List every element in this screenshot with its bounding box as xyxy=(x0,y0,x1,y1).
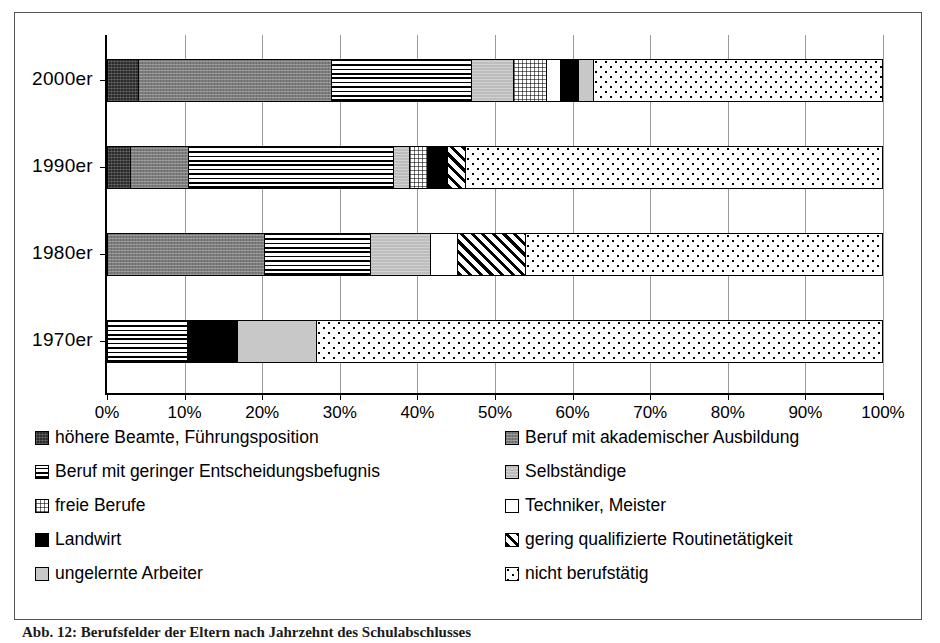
bar-segment[interactable] xyxy=(131,147,189,188)
x-tick-40 xyxy=(417,393,418,400)
legend-item[interactable]: gering qualifizierte Routinetätigkeit xyxy=(505,529,793,550)
category-label-1970er: 1970er xyxy=(32,329,93,351)
legend-label: nicht berufstätig xyxy=(525,563,649,584)
legend-label: höhere Beamte, Führungsposition xyxy=(55,427,319,448)
bar-segment[interactable] xyxy=(561,60,580,101)
legend-label: ungelernte Arbeiter xyxy=(55,563,203,584)
bar-segment[interactable] xyxy=(472,60,514,101)
bar-row: 1990er xyxy=(107,146,883,189)
legend-item[interactable]: Techniker, Meister xyxy=(505,495,666,516)
category-label-1980er: 1980er xyxy=(32,242,93,264)
x-axis-label: 80% xyxy=(693,403,763,423)
legend-label: Beruf mit geringer Entscheidungsbefugnis xyxy=(55,461,380,482)
bar-segment[interactable] xyxy=(428,147,448,188)
bar-segment[interactable] xyxy=(547,60,561,101)
x-axis-label: 60% xyxy=(538,403,608,423)
y-tick xyxy=(100,341,107,342)
legend-item[interactable]: ungelernte Arbeiter xyxy=(35,563,203,584)
x-tick-50 xyxy=(495,393,496,400)
bar-segment[interactable] xyxy=(466,147,882,188)
bar-segment[interactable] xyxy=(458,234,526,275)
y-tick xyxy=(100,167,107,168)
bar-segment[interactable] xyxy=(371,234,431,275)
stacked-bar-1980er[interactable] xyxy=(107,233,883,276)
legend-swatch-icon xyxy=(35,465,49,479)
bar-row: 1980er xyxy=(107,233,883,276)
legend-swatch-icon xyxy=(505,499,519,513)
bar-segment[interactable] xyxy=(238,321,317,362)
x-tick-80 xyxy=(728,393,729,400)
bar-segment[interactable] xyxy=(139,60,333,101)
legend-item[interactable]: Selbständige xyxy=(505,461,626,482)
bar-segment[interactable] xyxy=(108,147,131,188)
figure-caption: Abb. 12: Berufsfelder der Eltern nach Ja… xyxy=(22,624,922,643)
bar-segment[interactable] xyxy=(332,60,471,101)
bar-segment[interactable] xyxy=(394,147,409,188)
bar-segment[interactable] xyxy=(108,321,188,362)
legend-swatch-icon xyxy=(505,431,519,445)
x-axis-label: 90% xyxy=(770,403,840,423)
x-axis-label: 20% xyxy=(227,403,297,423)
x-axis-label: 70% xyxy=(615,403,685,423)
legend-item[interactable]: höhere Beamte, Führungsposition xyxy=(35,427,319,448)
bar-segment[interactable] xyxy=(108,60,139,101)
legend-swatch-icon xyxy=(35,499,49,513)
x-axis-label: 50% xyxy=(460,403,530,423)
bar-row: 2000er xyxy=(107,59,883,102)
stacked-bar-2000er[interactable] xyxy=(107,59,883,102)
x-axis-label: 10% xyxy=(150,403,220,423)
x-axis-label: 40% xyxy=(382,403,452,423)
legend-item[interactable]: Landwirt xyxy=(35,529,121,550)
stacked-bar-1990er[interactable] xyxy=(107,146,883,189)
stacked-bar-1970er[interactable] xyxy=(107,320,883,363)
legend-label: freie Berufe xyxy=(55,495,145,516)
x-tick-30 xyxy=(340,393,341,400)
legend-swatch-icon xyxy=(505,567,519,581)
bar-segment[interactable] xyxy=(189,147,394,188)
bar-segment[interactable] xyxy=(188,321,238,362)
bar-segment[interactable] xyxy=(108,234,265,275)
y-tick xyxy=(100,254,107,255)
bar-segment[interactable] xyxy=(265,234,371,275)
category-label-2000er: 2000er xyxy=(32,68,93,90)
x-tick-70 xyxy=(650,393,651,400)
legend-label: Landwirt xyxy=(55,529,121,550)
x-axis-label: 30% xyxy=(305,403,375,423)
legend-label: gering qualifizierte Routinetätigkeit xyxy=(525,529,793,550)
bar-segment[interactable] xyxy=(514,60,547,101)
bar-segment[interactable] xyxy=(431,234,458,275)
chart-legend: höhere Beamte, FührungspositionBeruf mit… xyxy=(35,425,897,603)
x-axis-label: 0% xyxy=(72,403,142,423)
y-tick xyxy=(100,80,107,81)
category-label-1990er: 1990er xyxy=(32,155,93,177)
x-tick-0 xyxy=(107,393,108,400)
x-tick-60 xyxy=(573,393,574,400)
legend-swatch-icon xyxy=(35,431,49,445)
legend-label: Beruf mit akademischer Ausbildung xyxy=(525,427,799,448)
bar-segment[interactable] xyxy=(448,147,467,188)
bar-row: 1970er xyxy=(107,320,883,363)
bar-segment[interactable] xyxy=(317,321,882,362)
figure-frame: 0%10%20%30%40%50%60%70%80%90%100%2000er1… xyxy=(14,12,922,620)
legend-swatch-icon xyxy=(35,533,49,547)
legend-item[interactable]: Beruf mit akademischer Ausbildung xyxy=(505,427,799,448)
legend-swatch-icon xyxy=(505,465,519,479)
legend-item[interactable]: Beruf mit geringer Entscheidungsbefugnis xyxy=(35,461,380,482)
legend-swatch-icon xyxy=(35,567,49,581)
legend-label: Techniker, Meister xyxy=(525,495,666,516)
legend-item[interactable]: freie Berufe xyxy=(35,495,145,516)
bar-segment[interactable] xyxy=(579,60,594,101)
bar-segment[interactable] xyxy=(526,234,882,275)
legend-item[interactable]: nicht berufstätig xyxy=(505,563,649,584)
x-tick-90 xyxy=(805,393,806,400)
bar-segment[interactable] xyxy=(410,147,428,188)
x-tick-100 xyxy=(883,393,884,400)
x-axis-label: 100% xyxy=(848,403,918,423)
gridline-100 xyxy=(883,35,884,393)
bar-segment[interactable] xyxy=(594,60,882,101)
x-tick-10 xyxy=(185,393,186,400)
legend-label: Selbständige xyxy=(525,461,626,482)
plot-area: 0%10%20%30%40%50%60%70%80%90%100%2000er1… xyxy=(105,35,883,395)
legend-swatch-icon xyxy=(505,533,519,547)
x-tick-20 xyxy=(262,393,263,400)
